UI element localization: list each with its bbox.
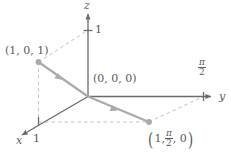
- start-point-label: (1, 0, 1): [5, 45, 49, 56]
- x-axis: [22, 97, 88, 136]
- fraction-denominator: 2: [165, 138, 173, 148]
- origin-point-label: (0, 0, 0): [93, 73, 137, 84]
- y-tick-label-pi-over-2: π 2: [198, 58, 206, 78]
- pi-over-two-fraction: π 2: [198, 58, 206, 78]
- x-axis-label: x: [16, 135, 22, 146]
- y-axis-label: y: [219, 91, 225, 102]
- fraction-numerator: π: [198, 58, 206, 67]
- coordinate-figure: z 1 y π 2 x 1 (0, 0, 0) (1, 0, 1) ( 1, π…: [0, 0, 231, 159]
- end-point-pi-over-two: π 2: [165, 129, 173, 149]
- end-point-label: ( 1, π 2 , 0 ): [147, 129, 194, 149]
- open-paren: (: [148, 131, 153, 147]
- end-point-expression: ( 1, π 2 , 0 ): [147, 129, 194, 149]
- curve-segment-upper: [39, 62, 89, 97]
- dash-end-to-y-tick: [149, 97, 204, 123]
- point-marker-end: [146, 119, 152, 125]
- curve-segment-lower: [88, 97, 149, 123]
- point-marker-start: [36, 59, 42, 65]
- end-point-first-component: 1,: [154, 133, 165, 144]
- close-paren: ): [188, 131, 193, 147]
- fraction-denominator: 2: [198, 67, 206, 77]
- z-tick-label: 1: [95, 24, 102, 35]
- z-axis-label: z: [84, 0, 90, 11]
- parametric-curve: [39, 62, 150, 122]
- x-tick-label: 1: [33, 133, 40, 144]
- end-point-last-component: , 0: [173, 133, 187, 144]
- fraction-numerator: π: [165, 129, 173, 138]
